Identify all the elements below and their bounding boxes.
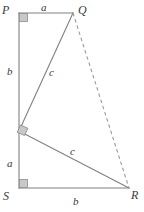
segment-t-r	[19, 131, 129, 188]
side-label-c-upper: c	[49, 67, 54, 78]
side-label-a-left: a	[7, 158, 13, 169]
vertex-label-q: Q	[78, 4, 87, 16]
side-label-b-bottom: b	[73, 196, 79, 207]
segment-t-q	[19, 13, 73, 131]
segment-q-r-dashed	[73, 13, 129, 188]
side-label-b-left: b	[7, 66, 13, 77]
side-label-a-top: a	[41, 2, 47, 13]
vertex-label-p: P	[2, 4, 9, 16]
right-angle-marker-s	[20, 180, 28, 188]
vertex-label-s: S	[3, 190, 9, 202]
right-angle-marker-p	[20, 14, 28, 22]
figure-canvas	[0, 0, 144, 212]
side-label-c-lower: c	[70, 146, 75, 157]
geometry-diagram: P Q S R a b c a c b	[0, 0, 144, 212]
vertex-label-r: R	[131, 189, 138, 201]
